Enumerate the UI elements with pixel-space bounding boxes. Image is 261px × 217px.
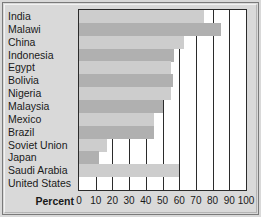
bar-chart: IndiaMalawiChinaIndonesiaEgyptBoliviaNig…: [0, 0, 261, 217]
gridline: [229, 10, 230, 190]
bar: [79, 113, 154, 126]
category-label: Egypt: [8, 61, 76, 74]
bar: [79, 23, 221, 36]
category-label: Brazil: [8, 126, 76, 139]
value-tick-label: 90: [224, 194, 235, 208]
value-tick-label: 60: [174, 194, 185, 208]
bar: [79, 164, 179, 177]
bar: [79, 10, 204, 23]
bar: [79, 49, 174, 62]
category-label: China: [8, 36, 76, 49]
gridline: [213, 10, 214, 190]
bar: [79, 100, 163, 113]
value-tick-label: 30: [124, 194, 135, 208]
bar: [79, 151, 99, 164]
category-label: Bolivia: [8, 74, 76, 87]
category-label: Malawi: [8, 23, 76, 36]
value-tick-label: 100: [238, 194, 255, 208]
category-label: Malaysia: [8, 100, 76, 113]
axis-title-percent: Percent: [8, 194, 74, 208]
value-axis-tick-labels: 0102030405060708090100: [78, 194, 247, 208]
bar: [79, 74, 173, 87]
value-tick-label: 80: [207, 194, 218, 208]
bar: [79, 139, 107, 152]
bar: [79, 36, 184, 49]
plot-area: [78, 9, 247, 191]
category-label: Japan: [8, 151, 76, 164]
bar: [79, 126, 154, 139]
category-label: Indonesia: [8, 49, 76, 62]
value-tick-label: 10: [90, 194, 101, 208]
category-label: Soviet Union: [8, 139, 76, 152]
category-label: Mexico: [8, 113, 76, 126]
category-label: Saudi Arabia: [8, 164, 76, 177]
category-label: Nigeria: [8, 87, 76, 100]
value-tick-label: 40: [140, 194, 151, 208]
bar: [79, 61, 171, 74]
gridline: [196, 10, 197, 190]
category-label: United States: [8, 177, 76, 190]
category-axis-labels: IndiaMalawiChinaIndonesiaEgyptBoliviaNig…: [8, 10, 76, 191]
category-label: India: [8, 10, 76, 23]
value-tick-label: 70: [190, 194, 201, 208]
value-tick-label: 20: [107, 194, 118, 208]
bar: [79, 87, 171, 100]
value-tick-label: 0: [76, 194, 82, 208]
value-tick-label: 50: [157, 194, 168, 208]
